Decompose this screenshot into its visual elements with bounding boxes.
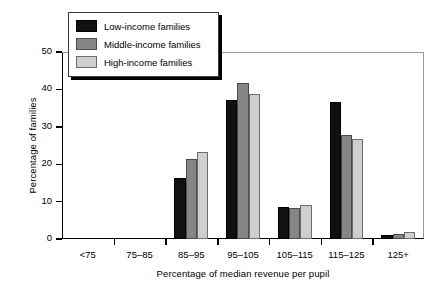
bar [289, 208, 300, 239]
bar [393, 234, 404, 239]
y-tick-label: 30 [41, 120, 52, 131]
bar [226, 100, 237, 239]
y-tick-label: 10 [41, 195, 52, 206]
bars-layer [62, 52, 424, 239]
legend-swatch [76, 38, 97, 50]
x-tick-label: 75–85 [126, 249, 152, 260]
bar [237, 83, 248, 239]
bar [352, 139, 363, 239]
bar [300, 205, 311, 239]
x-tick-label: <75 [80, 249, 96, 260]
x-tick-label: 125+ [387, 249, 408, 260]
legend-item: Middle-income families [76, 37, 201, 51]
bar [197, 152, 208, 239]
bar [404, 232, 415, 239]
bar [330, 102, 341, 239]
legend-swatch [76, 56, 97, 68]
x-tick-mark [114, 239, 115, 245]
legend-label: Low-income families [104, 21, 190, 32]
x-tick-mark [217, 239, 218, 245]
legend-swatch [76, 20, 97, 32]
bar [278, 207, 289, 239]
bar [381, 235, 392, 239]
x-tick-label: 85–95 [178, 249, 204, 260]
legend-item: High-income families [76, 55, 192, 69]
x-axis-title: Percentage of median revenue per pupil [62, 268, 424, 279]
x-tick-label: 105–115 [277, 249, 313, 260]
x-tick-mark [372, 239, 373, 245]
bar [186, 159, 197, 239]
y-tick-label: 0 [47, 232, 52, 243]
legend-item: Low-income families [76, 19, 190, 33]
x-tick-label: 115–125 [328, 249, 364, 260]
bar [341, 135, 352, 239]
chart-legend: Low-income familiesMiddle-income familie… [68, 12, 219, 77]
bar [249, 94, 260, 239]
y-tick-label: 50 [41, 45, 52, 56]
legend-label: High-income families [104, 57, 192, 68]
x-tick-mark [321, 239, 322, 245]
x-tick-label: 95–105 [227, 249, 259, 260]
y-tick-label: 20 [41, 157, 52, 168]
y-tick-label: 40 [41, 82, 52, 93]
x-tick-mark [269, 239, 270, 245]
legend-label: Middle-income families [104, 39, 201, 50]
x-tick-mark [165, 239, 166, 245]
bar-chart: Percentage of families 01020304050 <7575… [0, 0, 446, 295]
bar [174, 178, 185, 239]
y-axis-title: Percentage of families [27, 51, 38, 241]
